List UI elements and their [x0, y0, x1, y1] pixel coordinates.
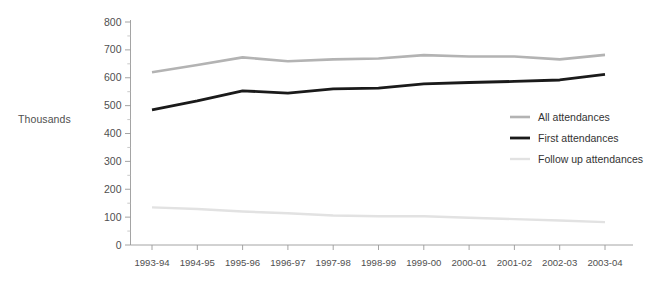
x-tick-label: 2001-02	[497, 257, 532, 268]
x-tick-label: 2002-03	[542, 257, 577, 268]
line-chart: Thousands 0100200300400500600700800 1993…	[0, 0, 654, 292]
x-tick-label: 1994-95	[180, 257, 215, 268]
y-tick-label: 700	[104, 43, 122, 55]
y-tick-label: 400	[104, 127, 122, 139]
chart-legend: All attendancesFirst attendancesFollow u…	[510, 111, 643, 165]
x-tick-label: 1999-00	[406, 257, 441, 268]
y-tick-label: 600	[104, 71, 122, 83]
y-tick-label: 500	[104, 99, 122, 111]
y-tick-label: 100	[104, 211, 122, 223]
y-tick-label: 800	[104, 16, 122, 28]
y-tick-label: 200	[104, 183, 122, 195]
x-axis: 1993-941994-951995-961996-971997-981998-…	[131, 245, 634, 268]
x-tick-label: 1996-97	[270, 257, 305, 268]
series-line-2	[152, 207, 605, 222]
x-tick-label: 1993-94	[134, 257, 170, 268]
legend-label-1: First attendances	[538, 132, 619, 144]
x-tick-label: 1998-99	[361, 257, 396, 268]
y-tick-label: 300	[104, 155, 122, 167]
y-axis: 0100200300400500600700800	[104, 16, 131, 251]
y-tick-label: 0	[116, 239, 122, 251]
x-tick-label: 2000-01	[451, 257, 486, 268]
chart-canvas: 0100200300400500600700800 1993-941994-95…	[0, 0, 654, 292]
series-line-0	[152, 55, 605, 72]
legend-label-2: Follow up attendances	[538, 153, 643, 165]
legend-label-0: All attendances	[538, 111, 610, 123]
series-line-1	[152, 74, 605, 109]
x-tick-label: 2003-04	[587, 257, 623, 268]
x-tick-label: 1997-98	[316, 257, 351, 268]
x-tick-label: 1995-96	[225, 257, 260, 268]
